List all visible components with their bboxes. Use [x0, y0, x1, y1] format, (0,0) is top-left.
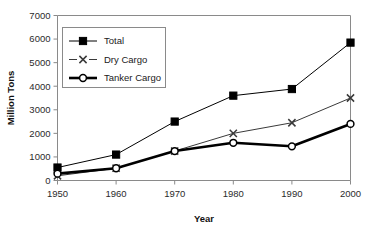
- legend-marker: [80, 75, 87, 82]
- y-tick-label: 3000: [29, 104, 50, 115]
- legend-label: Tanker Cargo: [104, 72, 161, 83]
- legend-label: Dry Cargo: [104, 54, 147, 65]
- data-point: [230, 139, 237, 146]
- y-axis-title: Million Tons: [5, 71, 16, 126]
- x-tick-label: 1990: [281, 188, 302, 199]
- data-point: [113, 151, 120, 158]
- data-point: [288, 85, 295, 92]
- legend-label: Total: [104, 35, 124, 46]
- y-tick-label: 7000: [29, 10, 50, 21]
- x-tick-label: 1970: [164, 188, 185, 199]
- y-tick-label: 1000: [29, 151, 50, 162]
- data-point: [347, 121, 354, 128]
- data-point: [54, 170, 61, 177]
- data-point: [113, 165, 120, 172]
- y-tick-label: 0: [45, 175, 50, 186]
- y-tick-label: 5000: [29, 57, 50, 68]
- legend-marker: [79, 37, 86, 44]
- data-point: [171, 148, 178, 155]
- x-tick-label: 1960: [106, 188, 127, 199]
- data-point: [347, 39, 354, 46]
- y-tick-label: 6000: [29, 33, 50, 44]
- line-chart: 01000200030004000500060007000 1950196019…: [0, 0, 373, 228]
- x-tick-label: 2000: [340, 188, 361, 199]
- legend-item-tanker-cargo: Tanker Cargo: [69, 72, 161, 83]
- data-point: [230, 92, 237, 99]
- x-tick-label: 1950: [47, 188, 68, 199]
- chart-container: 01000200030004000500060007000 1950196019…: [0, 0, 373, 228]
- data-point: [289, 143, 296, 150]
- data-point: [171, 118, 178, 125]
- legend: TotalDry CargoTanker Cargo: [63, 28, 166, 88]
- y-tick-label: 2000: [29, 128, 50, 139]
- x-tick-label: 1980: [223, 188, 244, 199]
- y-tick-label: 4000: [29, 81, 50, 92]
- x-axis-title: Year: [194, 213, 214, 224]
